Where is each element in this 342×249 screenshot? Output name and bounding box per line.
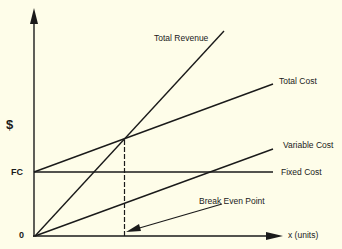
variable-cost-label: Variable Cost [283,141,333,150]
break-even-label: Break Even Point [199,197,265,206]
total-revenue-label: Total Revenue [154,34,208,43]
variable-cost-line [35,149,273,236]
fc-tick-label: FC [11,168,23,177]
fixed-cost-label: Fixed Cost [281,168,322,177]
x-axis-arrow-icon [266,232,283,240]
total-revenue-line [35,31,224,236]
total-cost-label: Total Cost [279,77,317,86]
break-even-arrow-line [136,204,222,229]
origin-label: 0 [19,231,24,240]
y-axis-arrow-icon [30,8,38,24]
y-axis-label: $ [6,118,13,131]
total-cost-line [34,84,273,172]
x-axis-label: x (units) [288,231,318,240]
break-even-arrow-icon [126,224,141,232]
